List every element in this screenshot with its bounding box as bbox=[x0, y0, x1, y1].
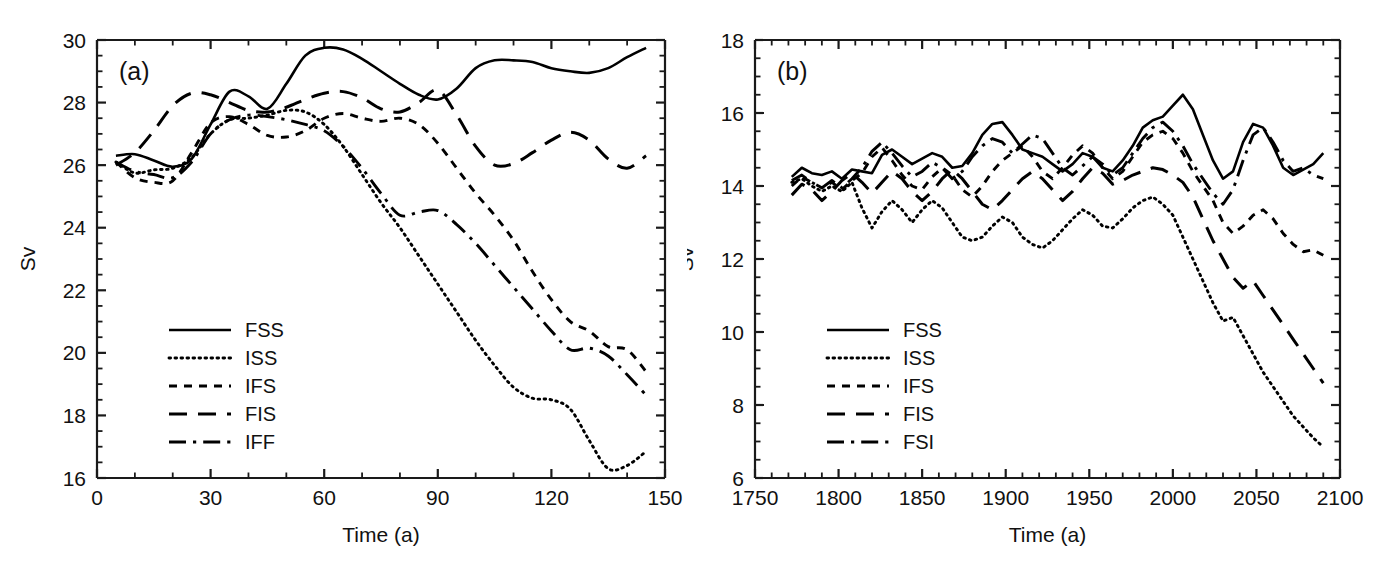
y-tick-label: 28 bbox=[63, 91, 86, 114]
x-tick-label: 60 bbox=[313, 486, 336, 509]
y-tick-label: 6 bbox=[732, 467, 744, 490]
series-line-FIS bbox=[792, 168, 1324, 383]
y-tick-label: 22 bbox=[63, 279, 86, 302]
panel-b: 1750180018501900195020002050210068101214… bbox=[687, 0, 1374, 574]
x-tick-label: 1950 bbox=[1066, 486, 1113, 509]
legend: FSSISSIFSFISIFF bbox=[169, 319, 284, 453]
y-tick-label: 20 bbox=[63, 341, 86, 364]
series-line-ISS bbox=[792, 179, 1324, 447]
legend-label-FIS: FIS bbox=[903, 403, 934, 425]
y-tick-label: 16 bbox=[63, 467, 86, 490]
x-tick-label: 2050 bbox=[1233, 486, 1280, 509]
legend-label-IFS: IFS bbox=[903, 375, 934, 397]
x-tick-label: 0 bbox=[91, 486, 103, 509]
y-tick-label: 26 bbox=[63, 154, 86, 177]
legend-label-FSS: FSS bbox=[903, 319, 942, 341]
y-tick-label: 18 bbox=[721, 29, 744, 52]
y-tick-label: 24 bbox=[63, 216, 87, 239]
panel-a: 03060901201501618202224262830Time (a)Sv(… bbox=[0, 0, 687, 574]
series-group bbox=[116, 47, 646, 470]
figure-container: 03060901201501618202224262830Time (a)Sv(… bbox=[0, 0, 1374, 574]
x-tick-label: 150 bbox=[647, 486, 682, 509]
legend-label-FIS: FIS bbox=[245, 403, 276, 425]
plot-b: 1750180018501900195020002050210068101214… bbox=[687, 0, 1374, 574]
axes bbox=[97, 40, 665, 478]
x-tick-label: 30 bbox=[199, 486, 222, 509]
series-line-FIS bbox=[116, 90, 646, 169]
x-tick-label: 1800 bbox=[815, 486, 862, 509]
panel-letter: (a) bbox=[119, 57, 150, 85]
y-tick-label: 16 bbox=[721, 102, 744, 125]
x-tick-label: 2100 bbox=[1317, 486, 1364, 509]
legend-label-ISS: ISS bbox=[903, 347, 935, 369]
y-tick-label: 18 bbox=[63, 404, 86, 427]
y-tick-label: 12 bbox=[721, 248, 744, 271]
panel-letter: (b) bbox=[777, 57, 808, 85]
y-tick-label: 8 bbox=[732, 394, 744, 417]
legend-label-IFF: IFF bbox=[245, 431, 275, 453]
series-group bbox=[792, 95, 1324, 447]
x-tick-label: 90 bbox=[426, 486, 449, 509]
x-axis-title: Time (a) bbox=[1009, 523, 1086, 546]
y-tick-label: 10 bbox=[721, 321, 744, 344]
series-line-FSS bbox=[792, 95, 1324, 179]
x-tick-label: 1850 bbox=[899, 486, 946, 509]
y-axis-title: Sv bbox=[16, 246, 39, 271]
y-axis-title: Sv bbox=[687, 246, 697, 271]
tick-labels: 03060901201501618202224262830 bbox=[63, 29, 683, 510]
series-line-FSS bbox=[116, 47, 646, 166]
plot-a: 03060901201501618202224262830Time (a)Sv(… bbox=[0, 0, 687, 574]
legend-label-ISS: ISS bbox=[245, 347, 277, 369]
legend: FSSISSIFSFISFSI bbox=[827, 319, 942, 453]
series-line-ISS bbox=[116, 110, 646, 470]
x-tick-label: 120 bbox=[534, 486, 569, 509]
y-tick-label: 30 bbox=[63, 29, 86, 52]
tick-labels: 1750180018501900195020002050210068101214… bbox=[721, 29, 1364, 510]
legend-label-FSS: FSS bbox=[245, 319, 284, 341]
series-line-IFF bbox=[116, 115, 646, 395]
x-tick-label: 1900 bbox=[982, 486, 1029, 509]
legend-label-FSI: FSI bbox=[903, 431, 934, 453]
x-axis-title: Time (a) bbox=[342, 523, 419, 546]
series-line-FSI bbox=[792, 122, 1324, 204]
legend-label-IFS: IFS bbox=[245, 375, 276, 397]
y-tick-label: 14 bbox=[721, 175, 745, 198]
axes bbox=[755, 40, 1340, 478]
x-tick-label: 2000 bbox=[1150, 486, 1197, 509]
